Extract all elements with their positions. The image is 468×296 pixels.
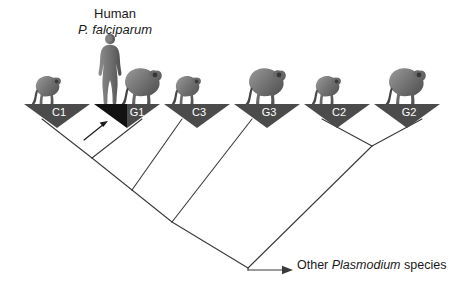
falciparum-lineage-arrow bbox=[84, 124, 104, 140]
branch-nodeC-down bbox=[172, 222, 248, 268]
clade-group-g3: G3 bbox=[234, 68, 300, 128]
clade-group-g1: G1 bbox=[84, 34, 162, 140]
cladogram-canvas: C1 G1 C3 G3 C2 bbox=[0, 0, 468, 296]
branch-c1 bbox=[42, 119, 92, 158]
branch-g2 bbox=[372, 119, 422, 146]
branch-network bbox=[42, 119, 422, 270]
clade-group-g2: G2 bbox=[374, 68, 440, 128]
phylogenetic-tree-figure: Human P. falciparum bbox=[0, 0, 468, 296]
clade-label-g1: G1 bbox=[130, 106, 145, 118]
root-label-suffix: species bbox=[401, 258, 447, 272]
clade-label-c3: C3 bbox=[192, 106, 206, 118]
root-label-prefix: Other bbox=[297, 258, 332, 272]
branch-c2 bbox=[322, 119, 372, 146]
root-label-genus: Plasmodium bbox=[332, 258, 401, 272]
clade-triangle-g1-highlight bbox=[94, 104, 127, 128]
root-arrowhead bbox=[282, 266, 293, 274]
clade-label-c2: C2 bbox=[332, 106, 346, 118]
branch-c3 bbox=[132, 119, 182, 190]
branch-g1 bbox=[92, 119, 142, 158]
clade-group-c1: C1 bbox=[24, 76, 90, 128]
clade-label-g3: G3 bbox=[262, 106, 277, 118]
other-plasmodium-label: Other Plasmodium species bbox=[297, 258, 446, 272]
clade-group-c3: C3 bbox=[164, 76, 230, 128]
branch-nodeB-down bbox=[132, 190, 172, 222]
clade-group-c2: C2 bbox=[304, 76, 370, 128]
branch-g3 bbox=[172, 119, 252, 222]
clade-label-g2: G2 bbox=[402, 106, 417, 118]
clade-label-c1: C1 bbox=[52, 106, 66, 118]
branch-nodeD-down bbox=[248, 146, 372, 268]
branch-nodeA-down bbox=[92, 158, 132, 190]
